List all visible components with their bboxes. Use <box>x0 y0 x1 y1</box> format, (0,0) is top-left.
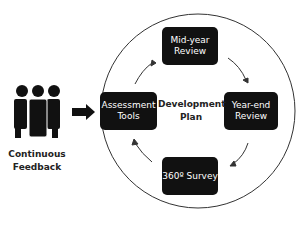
node-label: Tools <box>102 111 156 122</box>
arrow-right-icon <box>72 104 95 120</box>
node-label: Mid-year <box>170 35 209 46</box>
people-label-line: Continuous <box>4 148 70 161</box>
node-label: Year-end <box>232 100 271 111</box>
node-assessment-tools: AssessmentTools <box>100 92 157 130</box>
node-year-end-review: Year-endReview <box>224 92 278 130</box>
people-group-icon <box>14 85 60 138</box>
center-label-line: Plan <box>158 111 224 124</box>
people-label: Continuous Feedback <box>4 148 70 174</box>
node-label: Assessment <box>102 100 156 111</box>
node-label: Review <box>232 111 271 122</box>
node-360-survey: 360º Survey <box>162 157 218 195</box>
center-label: Development Plan <box>158 98 224 124</box>
people-label-line: Feedback <box>4 161 70 174</box>
center-label-line: Development <box>158 98 224 111</box>
node-mid-year-review: Mid-yearReview <box>162 27 218 65</box>
node-label: Review <box>170 46 209 57</box>
node-label: 360º Survey <box>162 171 218 182</box>
